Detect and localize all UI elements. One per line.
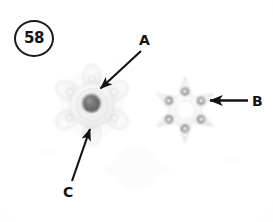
figure-plate: 58 A B C: [0, 0, 273, 222]
callout-arrow-layer: [0, 0, 273, 222]
callout-arrow-C: [72, 129, 90, 181]
callout-arrow-A: [101, 51, 142, 89]
